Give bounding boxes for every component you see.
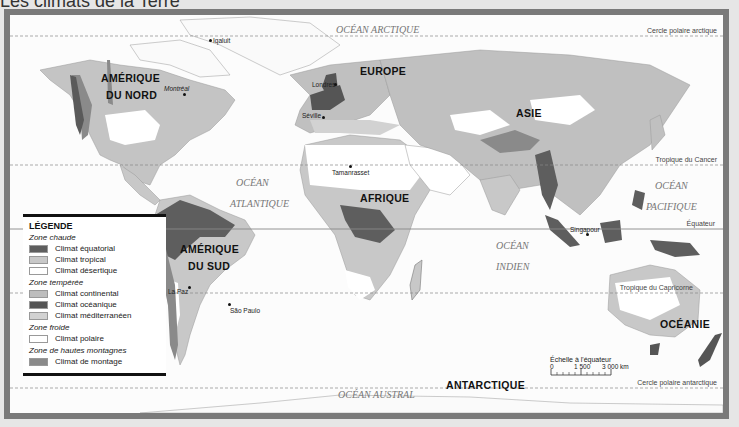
label-north-america-2: DU NORD (106, 89, 157, 101)
city-iqaluit: Iqaluit (213, 37, 230, 44)
legend-swatch (29, 256, 48, 264)
antarctic-circle-label: Cercle polaire antarctique (637, 379, 717, 386)
tasmania (650, 343, 660, 355)
arctic-circle-label: Cercle polaire arctique (647, 27, 717, 34)
city-la-paz: La Paz (168, 288, 188, 295)
label-indian-2: INDIEN (496, 261, 529, 272)
world-climate-map: Cercle polaire arctique Tropique du Canc… (10, 15, 723, 413)
legend-swatch (29, 358, 48, 366)
mediterranean-region (310, 120, 400, 135)
city-dot-la-paz (188, 286, 191, 289)
legend-swatch (29, 312, 48, 320)
legend-item: Climat méditerranéen (29, 310, 160, 321)
city-dot-seville (322, 116, 325, 119)
city-dot-tamanrasset (349, 165, 352, 168)
borneo (600, 220, 622, 243)
legend-title: LÉGENDE (29, 221, 160, 231)
legend-swatch (29, 245, 48, 253)
legend-zone-heading: Zone tempérée (29, 278, 160, 287)
legend-zone-heading: Zone froide (29, 323, 160, 332)
legend-item-label: Climat désertique (55, 266, 117, 275)
legend-zone-heading: Zone chaude (29, 233, 160, 242)
city-dot-montreal (183, 93, 186, 96)
label-indian-1: OCÉAN (496, 240, 529, 251)
legend-item: Climat océanique (29, 299, 160, 310)
label-asia: ASIE (516, 107, 542, 119)
scale-tick-1: 1 500 (574, 363, 590, 370)
city-singapour: Singapour (570, 226, 600, 233)
legend-body: Zone chaudeClimat équatorialClimat tropi… (29, 233, 160, 367)
legend-swatch (29, 267, 48, 275)
legend-swatch (29, 290, 48, 298)
antarctica (140, 395, 723, 413)
label-pacific-2: PACIFIQUE (646, 201, 697, 212)
city-dot-singapour (586, 233, 589, 236)
legend-zone-heading: Zone de hautes montagnes (29, 346, 160, 355)
label-pacific-1: OCÉAN (655, 180, 688, 191)
legend-item-label: Climat de montage (55, 357, 122, 366)
city-sao-paulo: São Paulo (230, 307, 260, 314)
legend-item: Climat polaire (29, 333, 160, 344)
legend-item: Climat de montage (29, 356, 160, 367)
city-seville: Séville (302, 112, 321, 119)
city-montreal: Montréal (164, 85, 189, 92)
new-guinea (650, 240, 700, 257)
legend-item-label: Climat tropical (55, 255, 106, 264)
city-londres: Londres (312, 81, 336, 88)
tropic-cancer-label: Tropique du Cancer (655, 156, 717, 163)
india (480, 175, 520, 215)
madagascar (410, 260, 422, 300)
label-atlantic-2: ATLANTIQUE (230, 198, 289, 209)
legend-item-label: Climat polaire (55, 334, 104, 343)
tropic-capricorn-label: Tropique du Capricorne (620, 284, 693, 291)
label-north-america-1: AMÉRIQUE (101, 72, 160, 84)
label-antarctica: ANTARCTIQUE (446, 379, 525, 391)
label-oceania: OCÉANIE (660, 318, 710, 330)
legend-item-label: Climat océanique (55, 300, 117, 309)
label-arctic-ocean: OCÉAN ARCTIQUE (336, 24, 419, 35)
legend-swatch (29, 301, 48, 309)
scale-title: Échelle à l'équateur (550, 356, 611, 363)
city-dot-sao-paulo (228, 303, 231, 306)
label-south-america-2: DU SUD (188, 260, 230, 272)
equator-label: Équateur (687, 220, 715, 227)
legend-item: Climat tropical (29, 254, 160, 265)
scale-tick-2: 3 000 km (602, 363, 629, 370)
new-zealand (698, 333, 722, 367)
label-south-america-1: AMÉRIQUE (180, 243, 239, 255)
legend-item: Climat continental (29, 288, 160, 299)
legend-item-label: Climat méditerranéen (55, 311, 131, 320)
legend-item-label: Climat équatorial (55, 244, 115, 253)
legend-item: Climat équatorial (29, 243, 160, 254)
label-africa: AFRIQUE (360, 192, 409, 204)
city-tamanrasset: Tamanrasset (332, 169, 369, 176)
scale: Échelle à l'équateur 0 1 500 3 000 km (550, 356, 611, 372)
philippines (632, 190, 645, 210)
label-southern-ocean: OCÉAN AUSTRAL (338, 389, 415, 400)
legend-swatch (29, 335, 48, 343)
scale-tick-0: 0 (550, 363, 554, 370)
legend-item-label: Climat continental (55, 289, 119, 298)
label-atlantic-1: OCÉAN (236, 177, 269, 188)
city-dot-iqaluit (209, 39, 212, 42)
label-europe: EUROPE (360, 65, 406, 77)
legend-item: Climat désertique (29, 265, 160, 276)
legend: LÉGENDE Zone chaudeClimat équatorialClim… (23, 214, 166, 376)
